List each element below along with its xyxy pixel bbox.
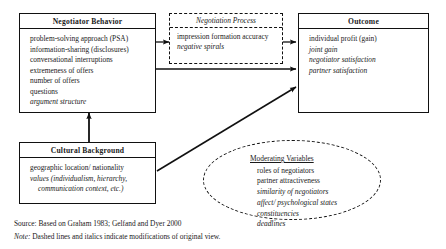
list-item: problem-solving approach (PSA) (30, 34, 155, 45)
list-item: similarity of negotiators (257, 187, 337, 198)
list-item: information-sharing (disclosures) (30, 45, 155, 56)
list-item: number of offers (30, 76, 155, 87)
list-item: partner satisfaction (309, 66, 428, 77)
negotiation-process-list: impression formation accuracy negative s… (170, 28, 282, 56)
list-item: affect/ psychological states (257, 198, 337, 209)
cultural-background-box: Cultural Background geographic location/… (19, 142, 156, 204)
outcome-box: Outcome individual profit (gain) joint g… (298, 13, 429, 113)
source-note: Source: Based on Graham 1983; Gelfand an… (14, 218, 181, 229)
list-item: questions (30, 87, 155, 98)
list-item: argument structure (30, 97, 155, 108)
negotiation-process-box: Negotiation Process impression formation… (169, 13, 283, 64)
list-item: roles of negotiators (257, 166, 337, 177)
note-text: Dashed lines and italics indicate modifi… (30, 232, 220, 241)
moderating-variables-title: Moderating Variables (250, 154, 337, 165)
list-item: negotiator satisfaction (309, 55, 428, 66)
list-item: extremeness of offers (30, 66, 155, 77)
negotiation-process-title: Negotiation Process (170, 14, 282, 28)
list-item: impression formation accuracy (177, 32, 282, 43)
source-text: Based on Graham 1983; Gelfand and Dyer 2… (37, 219, 182, 228)
list-item: deadlines (257, 219, 337, 230)
negotiator-behavior-list: problem-solving approach (PSA) informati… (20, 29, 155, 111)
list-item: communication context, etc.) (30, 184, 155, 195)
outcome-list: individual profit (gain) joint gain nego… (299, 29, 428, 79)
cultural-background-title: Cultural Background (20, 143, 155, 158)
list-item: partner attractiveness (257, 176, 337, 187)
moderating-variables-oval: Moderating Variables roles of negotiator… (203, 140, 381, 220)
source-label: Source: (14, 219, 37, 228)
list-item: joint gain (309, 45, 428, 56)
note-label: Note: (14, 232, 30, 241)
moderating-variables-list: roles of negotiators partner attractiven… (250, 166, 337, 230)
moderating-variables-content: Moderating Variables roles of negotiator… (250, 154, 337, 230)
list-item: constituencies (257, 209, 337, 220)
list-item: values (individualism, hierarchy, (30, 174, 155, 185)
list-item: conversational interruptions (30, 55, 155, 66)
negotiator-behavior-box: Negotiator Behavior problem-solving appr… (19, 13, 156, 113)
list-item: individual profit (gain) (309, 34, 428, 45)
cultural-background-list: geographic location/ nationality values … (20, 158, 155, 198)
modification-note: Note: Dashed lines and italics indicate … (14, 231, 220, 242)
outcome-title: Outcome (299, 14, 428, 29)
diagram-canvas: Negotiator Behavior problem-solving appr… (0, 0, 446, 249)
list-item: geographic location/ nationality (30, 163, 155, 174)
negotiator-behavior-title: Negotiator Behavior (20, 14, 155, 29)
list-item: negative spirals (177, 42, 282, 53)
